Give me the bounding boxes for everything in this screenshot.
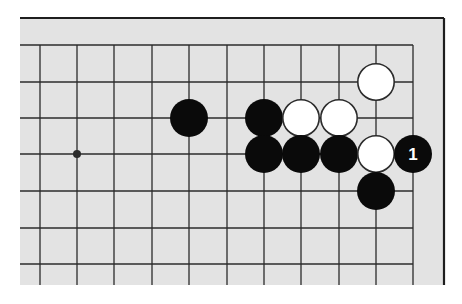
black-stone	[357, 172, 395, 210]
black-stone	[282, 135, 320, 173]
black-stone: 1	[394, 135, 432, 173]
black-stone	[170, 99, 208, 137]
star-points	[73, 150, 81, 158]
move-number-label: 1	[408, 145, 417, 164]
white-stone	[358, 136, 394, 172]
black-stone	[320, 135, 358, 173]
white-stone	[283, 100, 319, 136]
go-board-diagram: 1	[0, 0, 462, 304]
black-stone	[245, 135, 283, 173]
star-point	[73, 150, 81, 158]
black-stone	[245, 99, 283, 137]
white-stone	[321, 100, 357, 136]
white-stone	[358, 64, 394, 100]
